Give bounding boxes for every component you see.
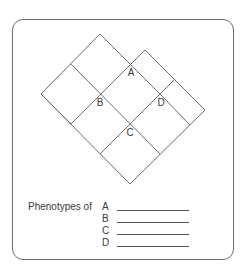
phenotype-row-c: C xyxy=(102,225,192,237)
grid-line-dl-3 xyxy=(100,79,175,154)
phenotypes-title: Phenotypes of xyxy=(28,201,92,213)
crossing-label-c: C xyxy=(126,128,133,138)
phenotype-answer-blank-a[interactable] xyxy=(117,210,189,211)
phenotype-letter: A xyxy=(102,201,109,213)
phenotype-answer-blank-b[interactable] xyxy=(117,222,189,223)
crossing-label-b: B xyxy=(97,98,104,108)
phenotype-row-d: D xyxy=(102,237,192,249)
grid-line-dl-2 xyxy=(71,50,145,124)
phenotype-answer-blank-c[interactable] xyxy=(117,234,189,235)
phenotype-letter: D xyxy=(102,237,109,249)
grid-line-ur-1 xyxy=(100,34,160,94)
phenotype-letter: C xyxy=(102,225,109,237)
phenotype-row-b: B xyxy=(102,213,192,225)
grid-line-ur-2 xyxy=(71,64,160,154)
phenotype-letter: B xyxy=(102,213,109,225)
crossing-label-d: D xyxy=(157,98,164,108)
grid-line-dl-4 xyxy=(130,110,205,184)
phenotype-row-a: A xyxy=(102,201,192,213)
phenotype-answer-blank-d[interactable] xyxy=(117,246,189,247)
crossing-label-a: A xyxy=(128,68,135,78)
grid-line-left-edge xyxy=(41,94,71,124)
grid-line-ur-4 xyxy=(145,50,205,110)
